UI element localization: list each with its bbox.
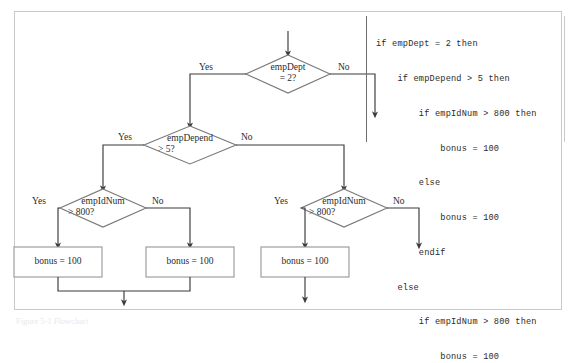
code-line: else bbox=[376, 178, 562, 190]
code-line: if empIdNum > 800 then bbox=[376, 109, 562, 121]
code-line: bonus = 100 bbox=[376, 352, 562, 363]
branch-label-d4-yes: Yes bbox=[274, 196, 288, 206]
code-block-right-rule bbox=[564, 16, 565, 142]
figure-caption: Figure 5-1 Flowchart bbox=[16, 316, 88, 326]
branch-label-d2-yes: Yes bbox=[118, 132, 132, 142]
branch-label-d2-no: No bbox=[241, 132, 253, 142]
process-box-1-label: bonus = 100 bbox=[14, 256, 102, 266]
decision-empdepend-label: empDepend > 5? bbox=[153, 133, 227, 155]
branch-label-d3-yes: Yes bbox=[32, 196, 46, 206]
edge-d3-no bbox=[146, 208, 190, 246]
edge-d3-yes bbox=[58, 208, 60, 246]
edge-d1-yes bbox=[190, 74, 246, 126]
decision-empdept-line1: empDept bbox=[271, 62, 306, 72]
code-line: if empDepend > 5 then bbox=[376, 74, 562, 86]
decision-empidnum-left-label: empIdNum > 800? bbox=[66, 196, 140, 218]
decision-empidnum-right-label: empIdNum > 800? bbox=[307, 196, 381, 218]
process-box-3-label: bonus = 100 bbox=[261, 256, 349, 266]
edge-d4-yes bbox=[301, 208, 305, 246]
branch-label-d1-no: No bbox=[338, 62, 350, 72]
process-box-2-label: bonus = 100 bbox=[146, 256, 234, 266]
code-line: bonus = 100 bbox=[376, 144, 562, 156]
branch-label-d1-yes: Yes bbox=[199, 62, 213, 72]
edge-d2-no bbox=[236, 145, 344, 189]
code-line: else bbox=[376, 283, 562, 295]
pseudocode-block: if empDept = 2 then if empDepend > 5 the… bbox=[366, 16, 562, 142]
code-line: endif bbox=[376, 248, 562, 260]
decision-empdepend-line2: > 5? bbox=[153, 144, 227, 155]
edge-d2-yes bbox=[103, 145, 144, 189]
edge-merge-left bbox=[58, 277, 190, 291]
code-line: bonus = 100 bbox=[376, 213, 562, 225]
decision-empdepend-line1: empDepend bbox=[167, 133, 213, 143]
decision-empidnum-left-line2: > 800? bbox=[66, 207, 140, 218]
code-line: if empIdNum > 800 then bbox=[376, 317, 562, 329]
branch-label-d3-no: No bbox=[152, 196, 164, 206]
decision-empidnum-left-line1: empIdNum bbox=[81, 196, 124, 206]
decision-empdept-line2: = 2? bbox=[280, 73, 297, 83]
decision-empdept-label: empDept = 2? bbox=[258, 62, 318, 84]
decision-empidnum-right-line2: > 800? bbox=[307, 207, 381, 218]
code-line: if empDept = 2 then bbox=[376, 39, 562, 51]
decision-empidnum-right-line1: empIdNum bbox=[322, 196, 365, 206]
